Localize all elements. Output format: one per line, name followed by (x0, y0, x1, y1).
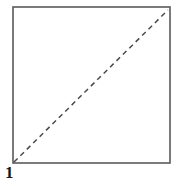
figure-background (0, 0, 187, 186)
geometric-figure-square-with-diagonal (0, 0, 187, 186)
figure-number-label: 1 (5, 164, 14, 182)
